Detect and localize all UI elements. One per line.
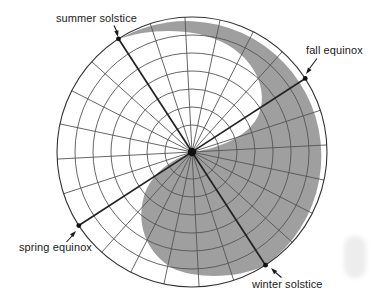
season-point-dot <box>116 36 121 41</box>
daylight-polar-diagram: summer solstice fall equinox spring equi… <box>0 0 382 305</box>
grid-spoke <box>185 17 192 150</box>
grid-spoke <box>57 152 190 159</box>
summer-solstice-arrow <box>114 26 119 38</box>
grid-spoke <box>192 20 220 150</box>
grid-spoke <box>150 24 191 150</box>
season-axis-spoke <box>118 39 190 151</box>
winter-solstice-label: winter solstice <box>252 278 323 291</box>
summer-solstice-label: summer solstice <box>56 12 137 25</box>
fall-equinox-label: fall equinox <box>306 44 363 57</box>
fall-equinox-arrow <box>306 59 317 75</box>
spring-equinox-label: spring equinox <box>19 241 92 254</box>
season-point-dot <box>303 76 308 81</box>
winter-solstice-arrow <box>271 268 282 278</box>
center-point <box>188 148 196 156</box>
scan-artifact <box>344 236 366 278</box>
season-point-dot <box>263 263 268 268</box>
grid-spoke <box>60 124 190 152</box>
season-point-dot <box>76 223 81 228</box>
